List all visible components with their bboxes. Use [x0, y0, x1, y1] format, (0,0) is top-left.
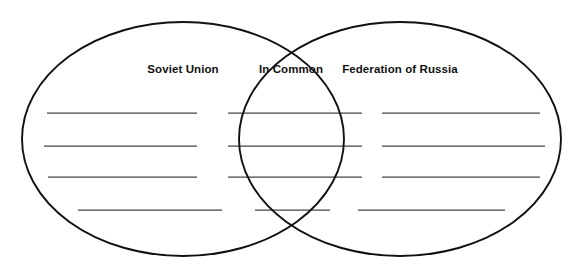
- venn-diagram-worksheet: Soviet Union In Common Federation of Rus…: [0, 0, 581, 268]
- ellipses-group: [22, 22, 561, 256]
- venn-diagram-canvas: [0, 0, 581, 268]
- left-set-label: Soviet Union: [147, 64, 218, 76]
- overlap-set-label: In Common: [259, 64, 323, 76]
- left-set-ellipse: [22, 22, 344, 256]
- right-set-ellipse: [239, 22, 561, 256]
- right-set-label: Federation of Russia: [342, 64, 458, 76]
- ruled-lines-group: [44, 113, 545, 210]
